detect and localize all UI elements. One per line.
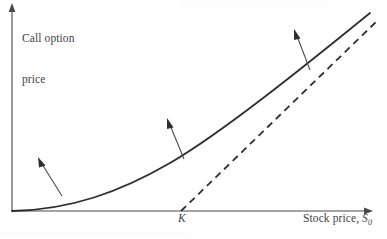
arrow-head-right-icon <box>294 29 301 40</box>
sensitivity-arrow-right <box>294 29 310 70</box>
intrinsic-value-payoff-line <box>181 22 376 211</box>
y-axis-label-line-1: Call option <box>22 32 112 46</box>
arrow-head-middle-icon <box>167 118 174 129</box>
strike-price-label: K <box>178 212 186 224</box>
arrow-head-left-icon <box>38 157 46 168</box>
x-axis-label-prefix: Stock price, <box>303 212 362 224</box>
call-option-price-figure: Call option price Stock price, S0 K <box>0 0 387 239</box>
x-axis-label: Stock price, S0 <box>303 212 387 229</box>
x-axis-label-subscript: 0 <box>368 218 372 227</box>
y-axis-arrowhead-icon <box>9 3 16 12</box>
sensitivity-arrow-left <box>38 157 62 196</box>
sensitivity-arrow-middle <box>167 118 184 159</box>
y-axis-label: Call option price <box>22 5 112 113</box>
y-axis-label-line-2: price <box>22 73 112 87</box>
